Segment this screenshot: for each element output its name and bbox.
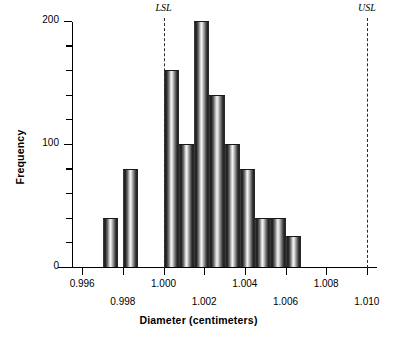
histogram-bar [240,169,255,267]
x-tick-label: 1.004 [232,278,257,289]
x-tick [204,268,205,275]
y-tick-minor [66,45,72,46]
x-tick [286,268,287,275]
x-axis-title: Diameter (centimeters) [0,314,397,326]
histogram-bar [255,218,270,267]
y-tick-label: 200 [42,14,59,25]
x-tick-label: 1.006 [273,296,298,307]
y-tick-minor [66,193,72,194]
histogram-bar [194,21,209,267]
y-tick-major: 200 [64,21,72,22]
y-tick-label: 100 [42,137,59,148]
y-tick-major: 100 [64,144,72,145]
y-axis-line [72,22,73,268]
x-tick-label: 1.010 [354,296,379,307]
histogram-bar [286,236,301,267]
histogram-bar [123,169,138,267]
y-tick-minor [66,242,72,243]
histogram-bar [225,144,240,267]
x-tick [164,268,165,275]
y-tick-minor [66,70,72,71]
histogram-bar [270,218,285,267]
x-tick-label: 0.996 [70,278,95,289]
histogram-bar [209,95,224,267]
plot-area: 0100200 0.9960.9981.0001.0021.0041.0061.… [72,22,377,268]
x-tick [367,268,368,275]
spec-limit-line-lsl [164,18,165,268]
y-axis-title: Frequency [14,107,26,207]
spec-limit-label-usl: USL [358,2,376,13]
histogram-bar [103,218,118,267]
x-tick-label: 1.000 [151,278,176,289]
histogram-bar [179,144,194,267]
x-tick [326,268,327,275]
x-tick [82,268,83,275]
x-tick [123,268,124,275]
x-tick-label: 0.998 [110,296,135,307]
y-tick-label: 0 [53,260,59,271]
y-tick-minor [66,168,72,169]
y-tick-minor [66,95,72,96]
histogram-bar [164,70,179,267]
x-axis-line [58,267,377,268]
y-tick-minor [66,218,72,219]
x-tick [245,268,246,275]
y-tick-major: 0 [64,267,72,268]
histogram-figure: Frequency 0100200 0.9960.9981.0001.0021.… [0,0,397,340]
x-tick-label: 1.008 [314,278,339,289]
x-tick-label: 1.002 [192,296,217,307]
spec-limit-label-lsl: LSL [155,2,171,13]
y-tick-minor [66,119,72,120]
spec-limit-line-usl [367,18,368,268]
